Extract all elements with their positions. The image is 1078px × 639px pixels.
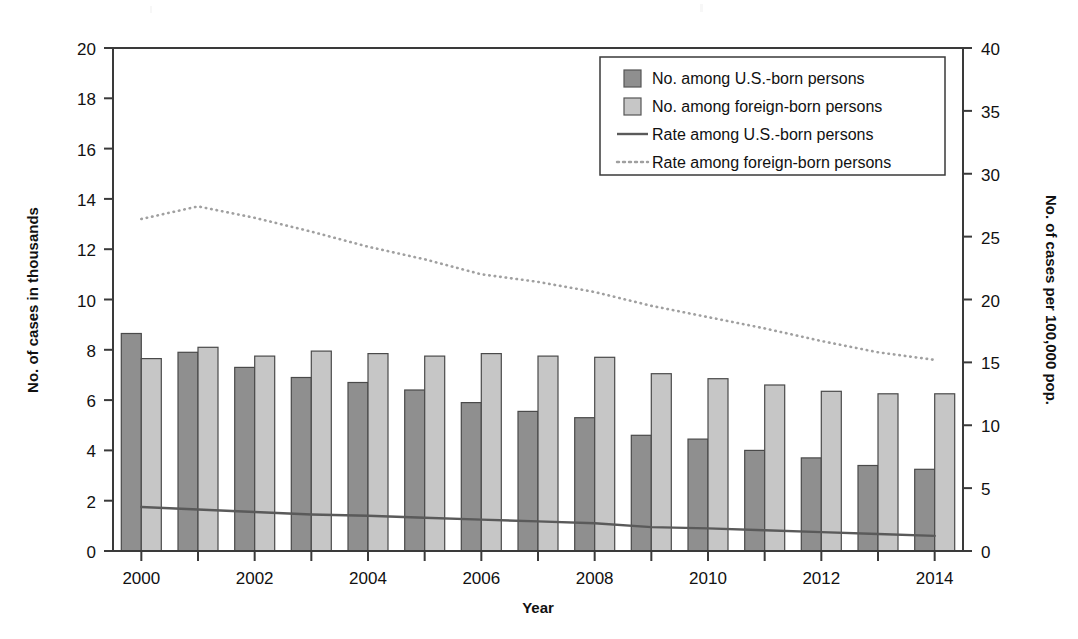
bar-usborn-2006 <box>461 403 481 551</box>
x-tick-label-2006: 2006 <box>462 569 500 588</box>
legend-swatch-dark-icon <box>624 70 641 87</box>
chart-canvas: 02468101214161820 0510152025303540 20002… <box>0 0 1078 639</box>
left-tick-label-6: 6 <box>87 392 96 411</box>
bar-usborn-2000 <box>121 334 141 552</box>
left-tick-label-16: 16 <box>77 141 96 160</box>
left-tick-label-4: 4 <box>87 442 96 461</box>
bar-foreignborn-2000 <box>141 359 161 551</box>
legend-swatch-light-icon <box>624 98 641 115</box>
bar-usborn-2008 <box>575 418 595 551</box>
x-tick-label-2004: 2004 <box>349 569 387 588</box>
chart-legend: No. among U.S.-born persons No. among fo… <box>600 57 945 175</box>
left-tick-label-8: 8 <box>87 342 96 361</box>
chart-figure: 02468101214161820 0510152025303540 20002… <box>0 0 1078 639</box>
bar-usborn-2003 <box>291 378 311 552</box>
bar-foreignborn-2006 <box>481 354 501 551</box>
bar-usborn-2012 <box>801 458 821 551</box>
legend-item-label-0: No. among U.S.-born persons <box>652 70 865 87</box>
bar-foreignborn-2005 <box>425 356 445 551</box>
left-tick-label-10: 10 <box>77 292 96 311</box>
bar-usborn-2001 <box>178 352 198 551</box>
bar-usborn-2011 <box>745 450 765 551</box>
bar-foreignborn-2001 <box>198 347 218 551</box>
bar-usborn-2004 <box>348 383 368 552</box>
bar-foreignborn-2004 <box>368 354 388 551</box>
x-tick-label-2000: 2000 <box>122 569 160 588</box>
x-tick-label-2010: 2010 <box>689 569 727 588</box>
right-tick-label-40: 40 <box>981 40 1000 59</box>
right-tick-label-5: 5 <box>981 480 990 499</box>
y-axis-right-title: No. of cases per 100,000 pop. <box>1043 195 1060 405</box>
x-tick-label-2002: 2002 <box>236 569 274 588</box>
legend-item-label-2: Rate among U.S.-born persons <box>652 126 873 143</box>
left-tick-label-2: 2 <box>87 493 96 512</box>
x-tick-label-2014: 2014 <box>916 569 954 588</box>
left-tick-label-0: 0 <box>87 543 96 562</box>
bar-usborn-2014 <box>915 469 935 551</box>
bar-usborn-2002 <box>235 367 255 551</box>
bar-foreignborn-2013 <box>878 394 898 551</box>
bar-foreignborn-2014 <box>935 394 955 551</box>
bar-foreignborn-2008 <box>595 357 615 551</box>
bar-usborn-2005 <box>405 390 425 551</box>
bar-foreignborn-2012 <box>821 391 841 551</box>
left-tick-label-18: 18 <box>77 90 96 109</box>
bar-foreignborn-2002 <box>255 356 275 551</box>
left-tick-label-12: 12 <box>77 241 96 260</box>
right-tick-label-15: 15 <box>981 354 1000 373</box>
right-tick-label-25: 25 <box>981 229 1000 248</box>
right-tick-label-10: 10 <box>981 417 1000 436</box>
x-tick-label-2008: 2008 <box>576 569 614 588</box>
x-tick-label-2012: 2012 <box>802 569 840 588</box>
left-tick-label-14: 14 <box>77 191 96 210</box>
right-tick-label-35: 35 <box>981 103 1000 122</box>
bar-usborn-2013 <box>858 466 878 552</box>
right-tick-label-20: 20 <box>981 292 1000 311</box>
legend-item-label-3: Rate among foreign-born persons <box>652 154 891 171</box>
legend-item-label-1: No. among foreign-born persons <box>652 98 882 115</box>
bar-usborn-2010 <box>688 439 708 551</box>
bar-usborn-2007 <box>518 411 538 551</box>
bar-foreignborn-2011 <box>765 385 785 551</box>
left-tick-label-20: 20 <box>77 40 96 59</box>
y-axis-left-title: No. of cases in thousands <box>24 207 41 393</box>
x-axis-title: Year <box>522 599 554 616</box>
bar-foreignborn-2010 <box>708 379 728 551</box>
bar-foreignborn-2009 <box>651 374 671 551</box>
bar-foreignborn-2003 <box>311 351 331 551</box>
right-tick-label-30: 30 <box>981 166 1000 185</box>
right-tick-label-0: 0 <box>981 543 990 562</box>
bar-usborn-2009 <box>631 435 651 551</box>
